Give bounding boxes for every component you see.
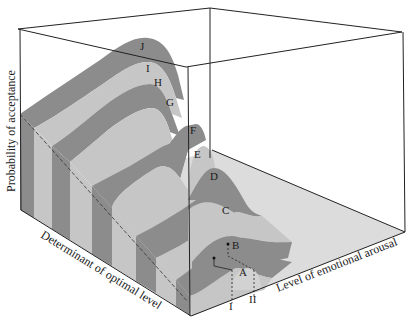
marker-label-ii: II (249, 293, 257, 305)
axis-label-probability: Probability of acceptance (4, 70, 18, 192)
curve-label-f: F (190, 124, 196, 136)
marker-dot-1 (213, 257, 216, 260)
curve-label-h: H (154, 76, 162, 88)
curve-label-e: E (194, 148, 201, 160)
curve-label-i: I (146, 62, 150, 74)
marker-label-i: I (229, 300, 233, 312)
curve-label-j: J (140, 40, 145, 52)
curve-label-b: B (232, 239, 239, 251)
optimal-arousal-3d-diagram: J I H G F E D C B A I II Probability of … (0, 0, 415, 326)
curve-label-d: D (210, 170, 218, 182)
curve-label-g: G (166, 96, 174, 108)
curve-label-c: C (222, 204, 229, 216)
diagram-canvas: J I H G F E D C B A I II Probability of … (0, 0, 415, 326)
curve-label-a: A (239, 266, 247, 278)
marker-dot-2 (227, 243, 230, 246)
